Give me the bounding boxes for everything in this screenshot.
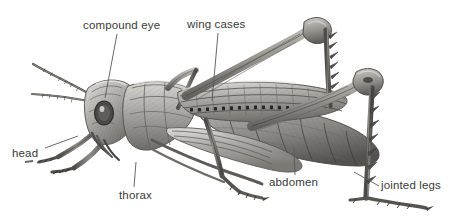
label-wing-cases: wing cases <box>187 18 245 31</box>
label-compound-eye: compound eye <box>83 19 160 32</box>
label-thorax: thorax <box>119 189 152 202</box>
grasshopper-anatomy-figure: compound eye wing cases head thorax abdo… <box>0 0 450 223</box>
label-jointed-legs: jointed legs <box>381 179 441 192</box>
label-head: head <box>12 147 38 160</box>
leader-line-thorax <box>134 162 136 187</box>
label-abdomen: abdomen <box>269 176 318 189</box>
